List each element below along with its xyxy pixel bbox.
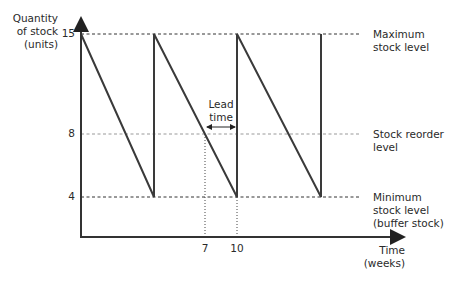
max-level-label-line2: stock level [373,41,452,54]
x-axis-label: Time (weeks) [355,244,405,270]
min-level-label: Minimum stock level (buffer stock) [373,191,452,230]
reorder-level-label-line2: level [373,141,452,154]
max-level-label-line1: Maximum [373,28,452,41]
min-level-label-line3: (buffer stock) [373,217,452,230]
min-level-label-line1: Minimum [373,191,452,204]
lead-time-label: Lead time [201,98,241,124]
x-tick-10: 10 [227,242,247,255]
x-axis-label-line2: (weeks) [355,257,405,270]
y-axis-label: Quantity of stock (units) [8,12,58,51]
y-axis-label-line2: of stock [8,25,58,38]
y-tick-8: 8 [56,127,75,140]
max-level-label: Maximum stock level [373,28,452,54]
reorder-level-label: Stock reorder level [373,128,452,154]
min-level-label-line2: stock level [373,204,452,217]
y-axis-label-line3: (units) [8,38,58,51]
y-tick-4: 4 [56,190,75,203]
y-axis-label-line1: Quantity [8,12,58,25]
y-tick-15: 15 [56,27,75,40]
lead-time-label-line1: Lead [201,98,241,111]
lead-time-label-line2: time [201,111,241,124]
x-axis-label-line1: Time [355,244,405,257]
reorder-level-label-line1: Stock reorder [373,128,452,141]
x-tick-7: 7 [195,242,215,255]
